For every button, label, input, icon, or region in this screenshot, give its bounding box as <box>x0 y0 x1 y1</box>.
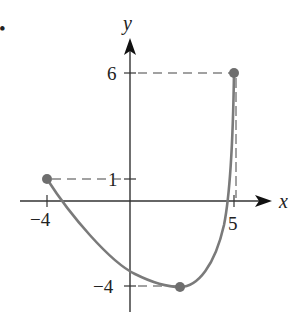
y-tick-label-6: 6 <box>107 63 117 84</box>
point-minimum <box>175 282 185 292</box>
axes: x y <box>20 12 288 312</box>
function-graph: • x y −4 5 6 1 −4 <box>0 0 294 328</box>
corner-bullet: • <box>0 18 6 39</box>
x-axis-label: x <box>278 190 288 212</box>
y-tick-label-neg4: −4 <box>93 276 114 297</box>
x-tick-label-5: 5 <box>228 213 238 234</box>
y-axis-label: y <box>121 12 132 35</box>
function-curve <box>47 73 234 287</box>
dashed-guides <box>52 73 230 286</box>
point-end <box>229 68 239 78</box>
point-start <box>42 174 52 184</box>
x-tick-label-neg4: −4 <box>30 209 51 230</box>
